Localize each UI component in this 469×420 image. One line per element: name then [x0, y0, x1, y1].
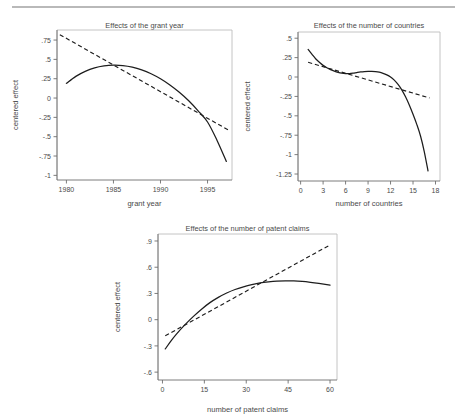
y-tick-label: -1: [286, 151, 292, 158]
series-solid: [66, 65, 226, 161]
plot-frame: [158, 234, 337, 380]
y-tick-label: -.25: [280, 93, 292, 100]
chart-panel-number-of-countries: Effects of the number of countries036912…: [238, 14, 462, 210]
y-tick-label: -.75: [39, 153, 51, 160]
y-axis-label: centered effect: [243, 81, 252, 132]
x-tick-label: 1990: [153, 186, 169, 193]
y-tick-label: -1: [45, 172, 51, 179]
y-tick-label: -1.25: [276, 171, 292, 178]
y-tick-label: .75: [41, 37, 51, 44]
chart-svg-grant-year: Effects of the grant year198019851990199…: [8, 14, 240, 210]
x-tick-label: 3: [321, 187, 325, 194]
x-tick-label: 1980: [59, 186, 75, 193]
x-tick-label: 12: [387, 187, 395, 194]
x-axis-label: number of countries: [335, 199, 402, 208]
plot-frame: [298, 32, 440, 181]
x-tick-label: 15: [200, 386, 208, 393]
y-axis-label: centered effect: [11, 79, 20, 130]
y-tick-label: 0: [288, 74, 292, 81]
series-solid: [308, 49, 428, 170]
x-tick-label: 30: [242, 386, 250, 393]
series-dashed: [165, 245, 330, 336]
y-tick-label: 0: [47, 95, 51, 102]
plot-frame: [57, 30, 232, 180]
y-tick-label: .5: [45, 56, 51, 63]
x-tick-label: 45: [284, 386, 292, 393]
x-tick-label: 6: [344, 187, 348, 194]
y-tick-label: 0: [148, 316, 152, 323]
y-tick-label: .3: [146, 290, 152, 297]
x-tick-label: 1995: [200, 186, 216, 193]
y-tick-label: .5: [286, 35, 292, 42]
y-tick-label: -.75: [280, 132, 292, 139]
y-tick-label: -.3: [144, 343, 152, 350]
chart-panel-number-of-patent-claims: Effects of the number of patent claims01…: [110, 216, 358, 418]
chart-title: Effects of the grant year: [105, 21, 184, 30]
y-axis-label: centered effect: [113, 281, 122, 332]
chart-svg-number-of-countries: Effects of the number of countries036912…: [238, 14, 462, 210]
x-axis-label: grant year: [127, 199, 162, 208]
x-axis-label: number of patent claims: [207, 405, 288, 414]
y-tick-label: -.6: [144, 369, 152, 376]
y-tick-label: .25: [41, 75, 51, 82]
x-tick-label: 0: [161, 386, 165, 393]
y-tick-label: -.25: [39, 114, 51, 121]
y-tick-label: .6: [146, 264, 152, 271]
y-tick-label: -.5: [43, 133, 51, 140]
x-tick-label: 60: [326, 386, 334, 393]
x-tick-label: 18: [432, 187, 440, 194]
chart-svg-number-of-patent-claims: Effects of the number of patent claims01…: [110, 216, 358, 418]
chart-title: Effects of the number of patent claims: [186, 224, 310, 233]
series-solid: [165, 281, 330, 349]
x-tick-label: 9: [366, 187, 370, 194]
header-divider-rule: [12, 6, 455, 8]
chart-panel-grant-year: Effects of the grant year198019851990199…: [8, 14, 240, 210]
x-tick-label: 1985: [106, 186, 122, 193]
y-tick-label: .25: [282, 54, 292, 61]
x-tick-label: 0: [299, 187, 303, 194]
chart-title: Effects of the number of countries: [314, 21, 425, 30]
y-tick-label: .9: [146, 238, 152, 245]
x-tick-label: 15: [409, 187, 417, 194]
y-tick-label: -.5: [284, 112, 292, 119]
